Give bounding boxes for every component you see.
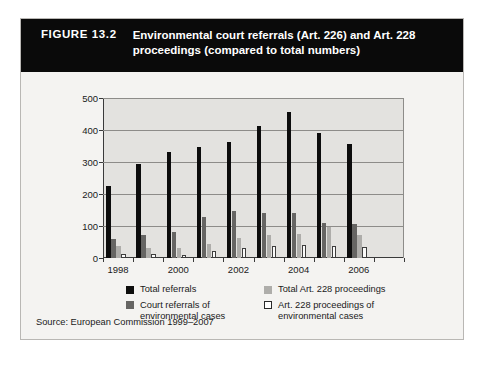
- y-axis-tick-label: 400: [58, 125, 98, 136]
- bar: [257, 126, 261, 258]
- bar: [352, 224, 356, 258]
- chart-region: 0100200300400500 19982000200220042006 To…: [21, 72, 463, 341]
- y-axis-tick-label: 300: [58, 157, 98, 168]
- bar: [141, 235, 145, 258]
- legend-item: Total referrals: [126, 284, 254, 296]
- bar: [111, 239, 115, 258]
- bar-group: [103, 98, 133, 258]
- page-title: Environmental court referrals (Art. 226)…: [133, 28, 449, 58]
- bar: [146, 248, 150, 258]
- legend-swatch-icon: [126, 286, 134, 294]
- bar-group: [344, 98, 374, 258]
- y-axis-tick-label: 500: [58, 93, 98, 104]
- bar: [167, 152, 171, 258]
- bar: [357, 235, 361, 258]
- bar: [297, 234, 301, 258]
- x-axis-tick-mark: [163, 258, 164, 262]
- x-axis-tick-mark: [193, 258, 194, 262]
- bar: [242, 248, 246, 258]
- x-axis-tick-mark: [133, 258, 134, 262]
- bar-group: [314, 98, 344, 258]
- bar: [232, 211, 236, 258]
- y-axis-tick-label: 100: [58, 221, 98, 232]
- bar-group: [193, 98, 223, 258]
- bar: [197, 147, 201, 258]
- x-axis-tick-label: 2004: [288, 264, 309, 275]
- figure-container: FIGURE 13.2 Environmental court referral…: [20, 18, 464, 340]
- x-axis-tick-mark: [103, 258, 104, 262]
- bar-group: [223, 98, 253, 258]
- x-axis-tick-mark: [404, 258, 405, 262]
- legend-label: Total referrals: [140, 284, 196, 296]
- bar-group: [133, 98, 163, 258]
- bar: [121, 254, 125, 258]
- bar: [317, 133, 321, 258]
- y-axis-tick-label: 0: [58, 253, 98, 264]
- figure-title-banner: FIGURE 13.2 Environmental court referral…: [21, 19, 463, 72]
- bar: [172, 232, 176, 258]
- bar: [327, 227, 331, 258]
- legend-label: Art. 228 proceedings of environmental ca…: [278, 300, 426, 323]
- bar: [212, 251, 216, 258]
- x-axis-tick-mark: [314, 258, 315, 262]
- legend-swatch-icon: [264, 301, 272, 309]
- bar: [272, 246, 276, 258]
- x-axis-tick-mark: [344, 258, 345, 262]
- figure-number: FIGURE 13.2: [41, 28, 117, 40]
- bar: [287, 112, 291, 258]
- bar: [207, 244, 211, 258]
- x-axis-tick-mark: [284, 258, 285, 262]
- bar: [202, 217, 206, 258]
- bar: [347, 144, 351, 258]
- bar: [362, 247, 366, 258]
- bar-group: [254, 98, 284, 258]
- legend-item: Art. 228 proceedings of environmental ca…: [264, 300, 426, 323]
- x-axis-tick-label: 1998: [107, 264, 128, 275]
- bar: [302, 245, 306, 258]
- bar: [106, 186, 110, 258]
- bar: [292, 213, 296, 258]
- bar: [177, 248, 181, 258]
- bar: [322, 223, 326, 258]
- x-axis-tick-label: 2000: [168, 264, 189, 275]
- bar: [227, 142, 231, 258]
- bar: [237, 238, 241, 258]
- x-axis-tick-label: 2002: [228, 264, 249, 275]
- legend-swatch-icon: [264, 286, 272, 294]
- bar: [267, 235, 271, 258]
- x-axis-tick-label: 2006: [348, 264, 369, 275]
- y-axis-tick-label: 200: [58, 189, 98, 200]
- bar-group: [374, 98, 404, 258]
- bar: [136, 164, 140, 258]
- bar: [332, 246, 336, 258]
- bar: [262, 213, 266, 258]
- bar: [151, 254, 155, 258]
- legend-swatch-icon: [126, 301, 134, 309]
- x-axis-tick-mark: [223, 258, 224, 262]
- bar: [116, 246, 120, 258]
- x-axis-tick-mark: [374, 258, 375, 262]
- plot-wrapper: 0100200300400500 19982000200220042006: [103, 98, 404, 258]
- bar: [182, 255, 186, 258]
- bar-group: [284, 98, 314, 258]
- legend-item: Total Art. 228 proceedings: [264, 284, 426, 296]
- legend-label: Total Art. 228 proceedings: [278, 284, 386, 296]
- x-axis-tick-mark: [254, 258, 255, 262]
- bar-group: [163, 98, 193, 258]
- source-note: Source: European Commission 1999–2007: [36, 317, 214, 327]
